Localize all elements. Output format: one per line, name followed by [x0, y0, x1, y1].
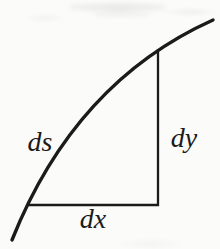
label-ds: ds: [28, 126, 53, 157]
label-dx: dx: [80, 203, 107, 234]
figure-canvas: ds dy dx: [0, 0, 220, 249]
label-dy: dy: [171, 122, 198, 153]
differential-triangle-diagram: ds dy dx: [0, 0, 220, 249]
